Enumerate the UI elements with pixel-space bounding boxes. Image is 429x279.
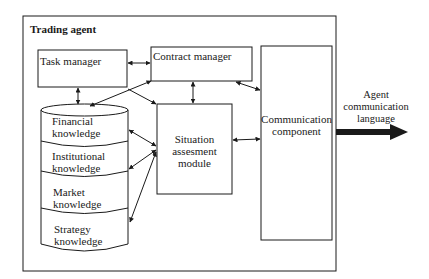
knowledge-layer-market: Market knowledge [53, 186, 101, 210]
contract-manager-label: Contract manager [153, 50, 232, 62]
task-manager-label: Task manager [40, 55, 101, 67]
knowledge-layer-financial: Financial knowledge [52, 115, 100, 139]
output-arrow [336, 124, 408, 140]
knowledge-layer-strategy: Strategy knowledge [54, 223, 102, 247]
output-label: Agent communication language [340, 89, 412, 125]
container-title: Trading agent [30, 23, 96, 35]
situation-module-label: Situation assesment module [157, 133, 232, 169]
communication-component-box [261, 46, 332, 240]
communication-component-label: Communication component [261, 113, 332, 137]
knowledge-layer-institutional: Institutional knowledge [52, 150, 105, 174]
